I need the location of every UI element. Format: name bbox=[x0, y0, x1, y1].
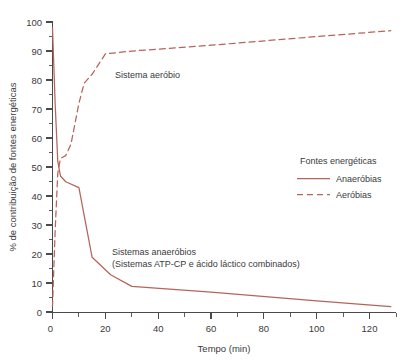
y-tick-label: 90 bbox=[31, 46, 42, 57]
y-axis: 100 90 80 70 60 50 40 30 20 10 0 % de co… bbox=[7, 17, 53, 318]
x-tick-label: 120 bbox=[362, 323, 378, 334]
x-tick-label: 0 bbox=[48, 323, 53, 334]
y-tick-label: 40 bbox=[31, 191, 42, 202]
y-axis-title: % de contribuição de fontes energéticas bbox=[7, 82, 18, 251]
y-tick-label: 100 bbox=[26, 17, 42, 28]
chart-canvas: 100 90 80 70 60 50 40 30 20 10 0 % de co… bbox=[0, 0, 411, 362]
annotation-anaerobic-line-1: Sistemas anaeróbios bbox=[112, 247, 197, 257]
y-tick-label: 20 bbox=[31, 249, 42, 260]
y-tick-label: 80 bbox=[31, 75, 42, 86]
legend-label-aerobias: Aeróbias bbox=[336, 190, 372, 200]
y-tick-label: 70 bbox=[31, 104, 42, 115]
legend-title: Fontes energéticas bbox=[300, 156, 377, 166]
y-tick-label: 10 bbox=[31, 278, 42, 289]
energy-systems-chart: 100 90 80 70 60 50 40 30 20 10 0 % de co… bbox=[0, 0, 411, 362]
legend-label-anaerobias: Anaeróbias bbox=[336, 174, 382, 184]
y-tick-label: 0 bbox=[37, 307, 42, 318]
y-tick-label: 30 bbox=[31, 220, 42, 231]
annotation-anaerobic-line-2: (Sistemas ATP-CP e ácido láctico combina… bbox=[112, 259, 300, 269]
annotation-aerobic-line-1: Sistema aeróbio bbox=[115, 70, 180, 80]
y-tick-label: 50 bbox=[31, 162, 42, 173]
legend-item-anaerobias: Anaeróbias bbox=[297, 174, 382, 184]
legend-item-aerobias: Aeróbias bbox=[297, 190, 372, 200]
annotation-aerobic: Sistema aeróbio bbox=[115, 70, 180, 80]
x-tick-label: 80 bbox=[259, 323, 270, 334]
legend: Fontes energéticas Anaeróbias Aeróbias bbox=[297, 156, 382, 200]
x-tick-label: 100 bbox=[309, 323, 325, 334]
x-tick-label: 20 bbox=[100, 323, 111, 334]
x-axis-title: Tempo (min) bbox=[198, 343, 251, 354]
x-tick-label: 40 bbox=[153, 323, 164, 334]
x-tick-label: 60 bbox=[206, 323, 217, 334]
y-tick-label: 60 bbox=[31, 133, 42, 144]
x-axis: 0 20 40 60 80 100 120 Tempo (min) bbox=[48, 313, 396, 355]
annotation-anaerobic: Sistemas anaeróbios (Sistemas ATP-CP e á… bbox=[112, 247, 300, 269]
